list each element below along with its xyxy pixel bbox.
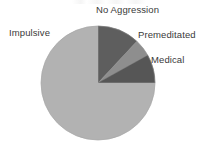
pie-label-premeditated: Premeditated: [138, 29, 196, 40]
pie-chart-canvas: [0, 0, 209, 148]
pie-label-impulsive: Impulsive: [9, 27, 50, 38]
pie-chart-figure: No Aggression Impulsive Premeditated Med…: [0, 0, 209, 148]
pie-slice-group: [41, 26, 155, 140]
pie-label-medical: Medical: [151, 54, 184, 65]
pie-label-no-aggression: No Aggression: [96, 4, 159, 15]
